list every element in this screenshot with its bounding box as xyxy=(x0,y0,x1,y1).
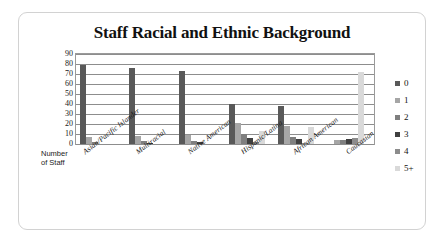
y-axis-title-line1: Number xyxy=(41,149,87,158)
legend-swatch-icon xyxy=(395,166,400,171)
legend-swatch-icon xyxy=(395,149,400,154)
legend-item[interactable]: 0 xyxy=(395,75,435,92)
legend-item[interactable]: 1 xyxy=(395,92,435,109)
bar xyxy=(80,65,86,144)
y-axis-tick-label: 0 xyxy=(69,140,73,148)
y-axis-tick-label: 40 xyxy=(65,100,73,108)
y-axis-tick-label: 90 xyxy=(65,50,73,58)
legend-item[interactable]: 4 xyxy=(395,143,435,160)
bar xyxy=(179,71,185,144)
y-axis-tick-label: 30 xyxy=(65,110,73,118)
legend-label: 3 xyxy=(404,130,409,139)
legend-swatch-icon xyxy=(395,98,400,103)
y-axis-title: Number of Staff xyxy=(41,149,87,168)
chart-legend: 012345+ xyxy=(395,75,435,177)
chart-title: Staff Racial and Ethnic Background xyxy=(19,23,425,43)
legend-item[interactable]: 5+ xyxy=(395,160,435,177)
y-axis-tick-label: 10 xyxy=(65,130,73,138)
y-axis-tick-label: 60 xyxy=(65,80,73,88)
legend-label: 1 xyxy=(404,96,409,105)
legend-label: 5+ xyxy=(404,164,414,173)
y-axis-tick-label: 70 xyxy=(65,70,73,78)
bar-group xyxy=(129,54,173,144)
bar-group xyxy=(328,54,372,144)
y-axis-tick-label: 50 xyxy=(65,90,73,98)
gridline xyxy=(76,144,374,145)
legend-label: 2 xyxy=(404,113,409,122)
chart-container: Staff Racial and Ethnic Background 01020… xyxy=(18,12,426,230)
y-axis-title-line2: of Staff xyxy=(41,158,87,167)
legend-item[interactable]: 2 xyxy=(395,109,435,126)
legend-swatch-icon xyxy=(395,81,400,86)
legend-swatch-icon xyxy=(395,115,400,120)
legend-label: 0 xyxy=(404,79,409,88)
legend-label: 4 xyxy=(404,147,409,156)
legend-swatch-icon xyxy=(395,132,400,137)
plot-area: 0102030405060708090 xyxy=(75,53,375,145)
legend-item[interactable]: 3 xyxy=(395,126,435,143)
y-axis-tick-label: 80 xyxy=(65,60,73,68)
y-axis-tick-label: 20 xyxy=(65,120,73,128)
